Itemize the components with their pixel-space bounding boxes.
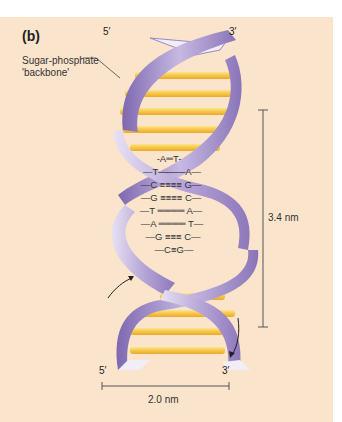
backbone-label: Sugar-phosphate 'backbone' <box>22 55 99 79</box>
width-label: 2.0 nm <box>148 394 179 405</box>
top-3-prime-label: 3′ <box>229 26 236 37</box>
base-pair-row: —T────A— <box>132 166 212 177</box>
bottom-3-prime-label: 3′ <box>222 365 229 376</box>
pitch-scale-bar <box>258 110 268 327</box>
base-pair-row: —C ≡≡≡≡ G— <box>116 179 226 190</box>
base-pair-row: —G ≡≡≡ C— <box>125 231 221 242</box>
bottom-5-prime-label: 5′ <box>99 365 106 376</box>
base-pair-row: —A ════ T— <box>114 218 230 229</box>
base-pair-row: —T ════ A— <box>112 205 230 216</box>
base-pair-row: -A═T- <box>148 153 190 164</box>
pitch-label: 3.4 nm <box>268 212 299 223</box>
base-pair-row: —G ≡≡≡≡ C— <box>112 192 230 203</box>
base-pair-row: —C≡G— <box>143 244 205 255</box>
panel-label: (b) <box>22 28 40 44</box>
width-scale-bar <box>102 382 229 390</box>
top-5-prime-label: 5′ <box>103 26 110 37</box>
